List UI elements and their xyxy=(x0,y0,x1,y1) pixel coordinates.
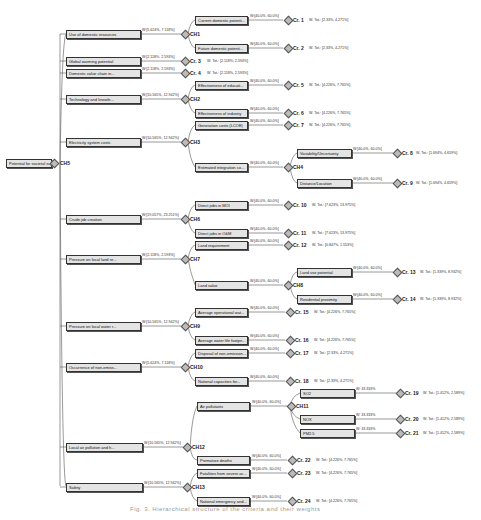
criterion-label: Cr. 3 xyxy=(190,58,201,64)
node-local-air-pollution[interactable]: Local air pollution and h... xyxy=(66,443,143,452)
node-land-requirement[interactable]: Land requirement xyxy=(195,241,248,250)
node-pressure-on-local-land[interactable]: Pressure on local land re... xyxy=(66,255,141,264)
total-weight: W. Tot.: [2.33%, 4.271%] xyxy=(314,378,353,384)
criterion-label: Cr. 21 xyxy=(405,430,419,436)
criterion-label: Cr. 5 xyxy=(293,82,304,88)
node-nox[interactable]: NOX xyxy=(300,415,355,424)
criterion-label: Cr. 12 xyxy=(293,242,307,248)
weight-label: W:[40.0%, 60.0%] xyxy=(250,347,279,351)
node-land-use-potential[interactable]: Land use potential xyxy=(297,268,352,277)
total-weight: W. Tot.: [1.694%, 4.659%] xyxy=(416,150,457,156)
node-domestic-value-chain[interactable]: Domestic value chain in... xyxy=(66,69,141,78)
total-weight: W. Tot.: [7.623%, 13.975%] xyxy=(312,202,355,208)
criterion-label: Cr. 11 xyxy=(293,230,306,236)
ch5-label: CH5 xyxy=(60,160,70,166)
total-weight: W. Tot.: [1.694%, 4.659%] xyxy=(416,180,457,186)
weight-label: W:[40.0%, 60.0%] xyxy=(353,177,382,181)
weight-label: W:[40.0%, 60.0%] xyxy=(252,467,281,471)
node-disposal-of-non-emission[interactable]: Disposal of non-emission... xyxy=(195,349,248,358)
ch8-label: CH8 xyxy=(293,282,303,288)
total-weight: W. Tot.: [1.339%, 8.932%] xyxy=(420,296,461,302)
node-crude-job-creation[interactable]: Crude job creation xyxy=(66,215,141,224)
criterion-label: Cr. 1 xyxy=(293,17,304,23)
node-electricity-system-costs[interactable]: Electricity system costs xyxy=(66,138,141,147)
ch13-label: CH13 xyxy=(192,484,205,490)
criterion-label: Cr. 22 xyxy=(297,457,311,463)
node-direct-jobs-moi[interactable]: Direct jobs in MOI xyxy=(195,201,248,210)
node-estimated-integration-costs[interactable]: Estimated integration co... xyxy=(195,163,248,172)
node-land-value[interactable]: Land value xyxy=(195,281,248,290)
node-future-domestic-potential[interactable]: Future domestic potenti... xyxy=(195,44,248,53)
weight-label: W:[10.565%, 12.942%] xyxy=(142,320,179,324)
node-average-water-life-footprint[interactable]: Average water life footpri... xyxy=(195,336,248,345)
weight-label: W:[10.565%, 12.942%] xyxy=(142,136,179,140)
node-technology-and-knowledge[interactable]: Technology and knowle... xyxy=(66,95,141,104)
weight-label: W: 33.333% xyxy=(356,427,376,431)
weight-label: W:[19.057%, 23.251%] xyxy=(142,213,179,217)
node-direct-jobs-om[interactable]: Direct jobs in O&M xyxy=(195,229,248,238)
node-occurrence-of-non-emission[interactable]: Occurrence of non-emiss... xyxy=(66,363,141,372)
node-pm25[interactable]: PM2.5 xyxy=(300,429,355,438)
weight-label: W:[40.0%, 60.0%] xyxy=(250,375,279,379)
weight-label: W:[10.565%, 12.942%] xyxy=(144,481,181,485)
criterion-label: Cr. 15 xyxy=(295,309,309,315)
ch6-label: CH6 xyxy=(190,216,200,222)
criterion-label: Cr. 2 xyxy=(293,45,304,51)
node-residential-proximity[interactable]: Residential proximity xyxy=(297,295,352,304)
weight-label: W: 33.333% xyxy=(356,413,376,417)
weight-label: W:[40.0%, 60.0%] xyxy=(250,14,279,18)
node-average-operational-water[interactable]: Average operational wat... xyxy=(195,308,248,317)
total-weight: W. Tot.: [1.412%, 2.589%] xyxy=(423,416,464,422)
root-node[interactable]: Potential for societal sup... xyxy=(6,159,52,168)
node-premature-deaths[interactable]: Premature deaths xyxy=(197,456,250,465)
ch12-label: CH12 xyxy=(192,444,205,450)
node-national-emergency[interactable]: National emergency and... xyxy=(197,497,250,506)
node-effectiveness-of-industry[interactable]: Effectiveness of industry xyxy=(195,109,248,118)
weight-label: W:[40.0%, 60.0%] xyxy=(353,293,382,297)
weight-label: W:[40.0%, 60.0%] xyxy=(353,147,382,151)
weight-label: W:[40.0%, 60.0%] xyxy=(250,279,279,283)
node-generation-costs[interactable]: Generation costs (LCOE) xyxy=(195,121,248,130)
node-distance-location[interactable]: Distance/Location xyxy=(297,179,352,188)
total-weight: W. Tot.: [4.226%, 7.765%] xyxy=(316,457,357,463)
weight-label: W:[40.0%, 60.0%] xyxy=(250,334,279,338)
weight-label: W:[40.0%, 60.0%] xyxy=(250,119,279,123)
total-weight: W. Tot.: [4.226%, 7.765%] xyxy=(316,498,357,504)
node-fatalities-severe-accidents[interactable]: Fatalities from severe ac... xyxy=(197,469,250,478)
node-safety[interactable]: Safety xyxy=(66,483,143,492)
criterion-label: Cr. 23 xyxy=(297,470,311,476)
weight-label: W:[10.565%, 12.942%] xyxy=(144,441,181,445)
total-weight: W. Tot.: [4.226%, 7.765%] xyxy=(314,337,355,343)
node-global-warming-potential[interactable]: Global warming potential xyxy=(66,57,141,66)
total-weight: W. Tot.: [2.118%, 2.593%] xyxy=(207,70,248,76)
node-use-of-domestic-resources[interactable]: Use of domestic resources xyxy=(66,30,141,39)
weight-label: W:[40.0%, 60.0%] xyxy=(353,266,382,270)
total-weight: W. Tot.: [2.33%, 4.271%] xyxy=(309,45,348,51)
node-variability-uncertainty[interactable]: Variability/Uncertainty xyxy=(297,149,352,158)
ch2-label: CH2 xyxy=(190,96,200,102)
node-so2[interactable]: SO2 xyxy=(300,389,355,398)
figure-caption: Fig. 3. Hierarchical structure of the cr… xyxy=(130,506,320,512)
weight-label: W:[40.0%, 60.0%] xyxy=(252,454,281,458)
total-weight: W. Tot.: [4.226%, 7.765%] xyxy=(314,309,355,315)
node-national-capacities[interactable]: National capacities for... xyxy=(195,377,248,386)
node-air-pollutants[interactable]: Air pollutants xyxy=(197,402,250,411)
weight-label: W:[5.624%, 7.118%] xyxy=(142,28,174,32)
node-current-domestic-potential[interactable]: Current domestic potenti... xyxy=(195,16,248,25)
ch11-label: CH11 xyxy=(296,403,309,409)
total-weight: W. Tot.: [1.339%, 8.932%] xyxy=(420,269,461,275)
weight-label: W:[40.0%, 60.0%] xyxy=(250,227,279,231)
weight-label: W:[2.118%, 2.593%] xyxy=(142,55,174,59)
weight-label: W:[40.0%, 60.0%] xyxy=(250,79,279,83)
ch9-label: CH9 xyxy=(190,323,200,329)
weight-label: W:[40.0%, 60.0%] xyxy=(250,199,279,203)
node-effectiveness-of-education[interactable]: Effectiveness of educati... xyxy=(195,81,248,90)
ch10-label: CH10 xyxy=(190,364,203,370)
total-weight: W. Tot.: [4.226%, 7.765%] xyxy=(309,110,350,116)
criterion-label: Cr. 8 xyxy=(402,150,413,156)
criterion-label: Cr. 14 xyxy=(402,296,416,302)
criterion-label: Cr. 9 xyxy=(402,180,413,186)
weight-label: W:[2.118%, 2.593%] xyxy=(142,67,174,71)
node-pressure-on-local-water[interactable]: Pressure on local water r... xyxy=(66,322,141,331)
criterion-label: Cr. 10 xyxy=(293,202,307,208)
